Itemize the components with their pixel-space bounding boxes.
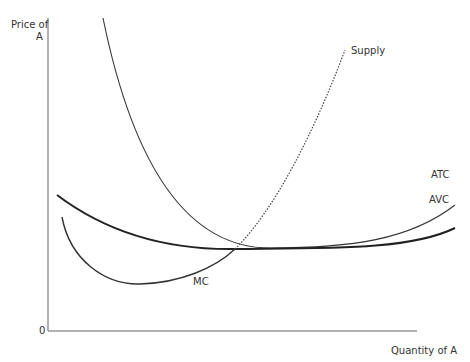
supply-curve xyxy=(235,50,345,249)
avc-label: AVC xyxy=(429,194,449,206)
supply-label: Supply xyxy=(351,45,385,57)
mc-label: MC xyxy=(193,276,209,288)
mc-curve xyxy=(62,217,235,284)
x-axis-label: Quantity of A xyxy=(391,345,457,357)
cost-curves-diagram xyxy=(0,0,470,362)
atc-curve xyxy=(103,18,455,248)
origin-label: 0 xyxy=(39,325,45,337)
y-axis-label-line1: Price of xyxy=(11,19,48,31)
avc-curve xyxy=(57,195,455,249)
atc-label: ATC xyxy=(431,169,450,181)
y-axis-label-line2: A xyxy=(36,31,43,43)
